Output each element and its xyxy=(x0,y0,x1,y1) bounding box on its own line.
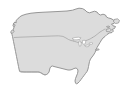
lake-huron xyxy=(82,40,85,44)
long-island xyxy=(96,49,100,51)
map-figure xyxy=(0,0,130,93)
prince-edward-island xyxy=(107,26,110,28)
newfoundland-island xyxy=(114,19,120,24)
north-america-map-svg xyxy=(0,0,130,93)
lake-erie xyxy=(85,45,90,47)
lake-michigan xyxy=(79,41,81,46)
